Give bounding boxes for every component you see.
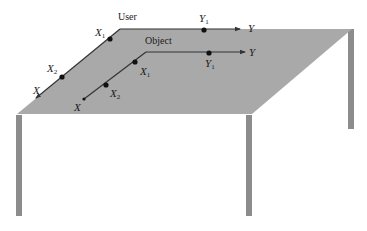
user-point-x1 <box>107 36 112 41</box>
user-y1-label: Y1 <box>199 12 209 26</box>
user-point-x2 <box>59 74 64 79</box>
table-diagram: User X1 X2 X Y1 Y Object X1 X2 X Y1 Y <box>0 0 367 231</box>
user-x-axis-label: X <box>32 84 41 96</box>
table-leg-front-right <box>246 115 252 216</box>
object-x-axis-end <box>82 97 85 100</box>
object-point-x2 <box>103 82 108 87</box>
object-x-axis-label: X <box>73 101 82 113</box>
table-leg-front-left <box>16 115 22 216</box>
user-x2-label: X2 <box>46 62 58 76</box>
user-x1-label: X1 <box>94 26 106 40</box>
object-point-x1 <box>132 59 137 64</box>
tabletop <box>17 29 352 114</box>
table-leg-back-right <box>348 29 354 129</box>
user-frame-label: User <box>118 11 138 22</box>
object-point-y1 <box>206 50 211 55</box>
user-point-y1 <box>201 27 206 32</box>
object-frame-label: Object <box>145 35 172 46</box>
